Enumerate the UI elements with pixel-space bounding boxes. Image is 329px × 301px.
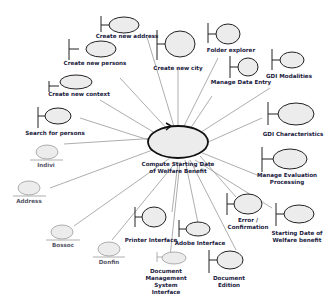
boundary-gdi-modalities[interactable]: GDI Modalities: [266, 49, 313, 79]
boundary-ellipse: [238, 58, 258, 76]
entity-label: Address: [16, 198, 42, 204]
boundary-label-line3: System: [154, 282, 177, 289]
boundary-ellipse: [234, 194, 262, 214]
boundary-label-line1: Document: [213, 275, 245, 281]
boundary-label-line1: Starting Date of: [272, 230, 323, 237]
boundary-label: Create new context: [48, 91, 110, 97]
boundary-label: Search for persons: [25, 130, 85, 137]
boundary-create-new-city[interactable]: Create new city: [153, 30, 203, 72]
boundary-ellipse: [273, 149, 307, 169]
boundary-ellipse: [186, 222, 210, 236]
entity-indivi[interactable]: Indivi: [30, 145, 63, 168]
boundary-adobe-interface[interactable]: Adobe Interface: [175, 220, 226, 246]
boundary-label-line1: Error /: [238, 217, 259, 223]
boundary-ellipse: [86, 41, 116, 57]
boundary-label-line2: Edition: [218, 282, 240, 288]
boundary-label-line2: Confirmation: [228, 224, 269, 230]
boundary-ellipse: [45, 108, 71, 124]
control-ellipse: [148, 126, 208, 158]
boundary-ellipse: [60, 75, 92, 89]
entity-address[interactable]: Address: [13, 181, 46, 204]
boundary-create-new-persons[interactable]: Create new persons: [64, 39, 127, 67]
boundary-label: Folder explorer: [207, 47, 256, 54]
entity-label: Indivi: [37, 162, 55, 168]
boundary-ellipse: [280, 52, 304, 68]
boundary-label: Create new persons: [64, 60, 127, 67]
boundary-folder-explorer[interactable]: Folder explorer: [207, 23, 256, 54]
boundary-label-line1: Document: [150, 268, 182, 274]
boundary-ellipse: [278, 103, 314, 125]
boundary-ellipse: [284, 205, 314, 223]
entity-bossoc[interactable]: Bossoc: [46, 225, 80, 248]
entity-label: Donfin: [99, 259, 120, 265]
control-label-line2: of Welfare Benefit: [149, 168, 207, 174]
boundary-starting-date-welfare-benefit[interactable]: Starting Date of Welfare benefit: [272, 203, 323, 243]
boundary-label-line2: Management: [145, 275, 187, 282]
boundary-label-line2: Welfare benefit: [273, 237, 322, 243]
entity-ellipse: [51, 225, 73, 239]
boundary-ellipse: [216, 24, 240, 44]
boundary-ellipse: [165, 31, 195, 57]
boundary-label-line2: Processing: [270, 179, 304, 186]
entity-ellipse: [98, 242, 120, 256]
boundary-label: Adobe Interface: [175, 240, 226, 246]
boundary-label: Manage Data Entry: [211, 79, 272, 86]
boundary-ellipse: [162, 252, 186, 264]
boundary-label: Create new address: [96, 33, 159, 39]
boundary-search-for-persons[interactable]: Search for persons: [25, 107, 85, 137]
entity-ellipse: [36, 145, 58, 159]
boundary-ellipse: [217, 251, 243, 269]
boundary-create-new-address[interactable]: Create new address: [96, 16, 159, 39]
boundary-document-edition[interactable]: Document Edition: [209, 250, 245, 288]
boundary-label-line4: Interface: [152, 289, 181, 295]
boundary-create-new-context[interactable]: Create new context: [48, 75, 110, 97]
robustness-diagram: Compute Starting Date of Welfare Benefit…: [0, 0, 329, 301]
boundary-ellipse: [142, 207, 166, 227]
boundary-manage-data-entry[interactable]: Manage Data Entry: [211, 56, 272, 86]
boundary-manage-evaluation-processing[interactable]: Manage Evaluation Processing: [257, 147, 317, 186]
boundary-label: GDI Modalities: [266, 73, 313, 79]
entity-ellipse: [18, 181, 40, 195]
boundary-gdi-characteristics[interactable]: GDI Characteristics: [263, 102, 324, 137]
boundary-label: Create new city: [153, 65, 203, 72]
boundary-document-management-system-interface[interactable]: Document Management System Interface: [145, 252, 187, 295]
boundary-ellipse: [109, 17, 139, 33]
boundary-label: GDI Characteristics: [263, 131, 324, 137]
entity-donfin[interactable]: Donfin: [93, 242, 125, 265]
boundary-label-line1: Manage Evaluation: [257, 172, 317, 179]
boundary-error-confirmation[interactable]: Error / Confirmation: [227, 193, 268, 230]
boundary-label: Printer Interface: [125, 237, 178, 243]
boundary-printer-interface[interactable]: Printer Interface: [125, 207, 178, 243]
entity-label: Bossoc: [52, 242, 74, 248]
control-label-line1: Compute Starting Date: [142, 161, 215, 168]
